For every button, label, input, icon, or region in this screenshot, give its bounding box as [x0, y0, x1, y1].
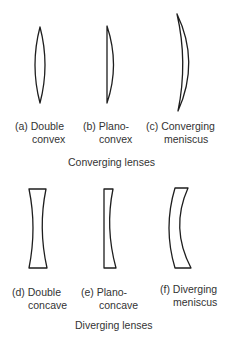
lens-double-convex — [35, 27, 45, 103]
label-diverging-meniscus: (f) Diverging meniscus — [160, 283, 217, 309]
lens-plano-concave — [104, 189, 116, 268]
label-prefix: (c) — [146, 120, 158, 132]
label-line1: Diverging — [173, 283, 217, 295]
label-plano-concave: (e) Plano- concave — [81, 286, 138, 312]
lens-double-concave — [29, 189, 47, 268]
label-line2: meniscus — [146, 133, 208, 145]
label-line1: Plano- — [99, 120, 129, 132]
label-prefix: (a) — [15, 120, 28, 132]
label-line2: convex — [83, 133, 132, 145]
lens-plano-convex — [107, 26, 114, 103]
lens-diverging-meniscus — [169, 188, 191, 268]
label-line2: convex — [15, 133, 65, 145]
label-line2: meniscus — [160, 296, 217, 308]
label-line2: concave — [81, 299, 138, 311]
label-line1: Double — [31, 120, 64, 132]
label-converging-meniscus: (c) Converging meniscus — [146, 120, 215, 146]
lens-converging-meniscus — [177, 14, 189, 111]
label-prefix: (e) — [81, 286, 94, 298]
label-prefix: (f) — [160, 283, 170, 295]
label-double-concave: (d) Double concave — [12, 286, 67, 312]
label-double-convex: (a) Double convex — [15, 120, 65, 146]
label-line2: concave — [12, 299, 67, 311]
label-line1: Converging — [161, 120, 215, 132]
label-plano-convex: (b) Plano- convex — [83, 120, 132, 146]
label-line1: Plano- — [97, 286, 127, 298]
label-prefix: (b) — [83, 120, 96, 132]
label-prefix: (d) — [12, 286, 25, 298]
label-line1: Double — [28, 286, 61, 298]
caption-diverging-lenses: Diverging lenses — [75, 319, 153, 332]
caption-converging-lenses: Converging lenses — [68, 156, 155, 169]
